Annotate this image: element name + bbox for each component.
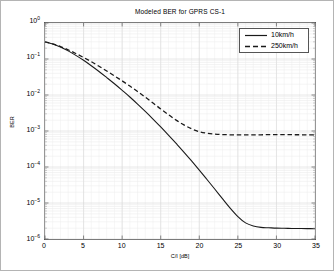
legend-line-sample-solid (244, 30, 268, 41)
y-tick-label-1: 10−1 (27, 53, 41, 60)
y-tick-label-6: 10−6 (27, 235, 41, 242)
x-tick-label-7: 35 (312, 242, 320, 249)
figure-canvas: Modeled BER for GPRS CS-1 10010−110−210−… (0, 0, 334, 271)
x-axis-label: C/I [dB] (44, 253, 316, 259)
legend-line-sample-dashed (244, 41, 268, 52)
x-tick-label-1: 5 (81, 242, 85, 249)
page-title: Modeled BER for GPRS CS-1 (44, 8, 316, 15)
legend-item-1: 250km/h (240, 41, 308, 52)
plot-axes (44, 22, 316, 240)
x-tick-label-5: 25 (234, 242, 242, 249)
axis-ticks (45, 23, 315, 239)
legend-label-0: 10km/h (271, 31, 294, 38)
y-tick-label-5: 10−5 (27, 199, 41, 206)
legend-box: 10km/h 250km/h (239, 28, 309, 53)
x-tick-label-6: 30 (273, 242, 281, 249)
x-tick-label-4: 20 (196, 242, 204, 249)
x-tick-label-2: 10 (118, 242, 126, 249)
y-tick-label-3: 10−3 (27, 126, 41, 133)
legend-label-1: 250km/h (271, 42, 298, 49)
x-tick-label-3: 15 (157, 242, 165, 249)
y-tick-label-2: 10−2 (27, 90, 41, 97)
y-tick-label-0: 100 (29, 17, 40, 24)
x-tick-label-0: 0 (42, 242, 46, 249)
y-axis-label: BER (9, 102, 15, 142)
y-tick-label-4: 10−4 (27, 162, 41, 169)
y-axis-tick-labels: 10010−110−210−310−410−510−6 (15, 22, 40, 240)
legend-item-0: 10km/h (240, 30, 308, 41)
